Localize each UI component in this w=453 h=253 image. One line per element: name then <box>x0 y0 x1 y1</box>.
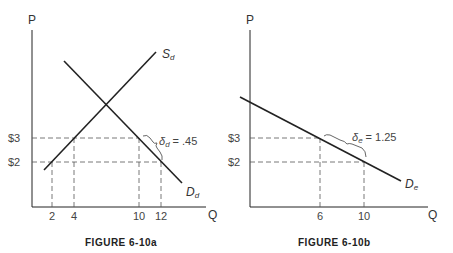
q-axis-label: Q <box>208 208 217 222</box>
q-tick-10: 10 <box>358 210 370 222</box>
figure-6-10a: P Q $3 $2 2 4 10 12 Sd Dd δd= .45 FIGURE… <box>8 13 217 248</box>
figures-canvas: P Q $3 $2 2 4 10 12 Sd Dd δd= .45 FIGURE… <box>0 0 453 253</box>
figure-caption-b: FIGURE 6-10b <box>298 237 371 248</box>
dashed-guides <box>32 138 161 207</box>
p-axis-label: P <box>28 13 36 27</box>
supply-curve-sd <box>44 52 156 170</box>
price-tick-2: $2 <box>8 156 20 168</box>
p-axis-label: P <box>246 13 254 27</box>
figure-caption-a: FIGURE 6-10a <box>85 237 157 248</box>
q-tick-12: 12 <box>155 210 167 222</box>
supply-label: Sd <box>162 47 175 62</box>
demand-label: De <box>405 177 419 192</box>
q-tick-10: 10 <box>133 210 145 222</box>
q-tick-2: 2 <box>49 210 55 222</box>
dashed-guides <box>250 138 364 207</box>
demand-curve-dd <box>64 61 182 183</box>
price-tick-2: $2 <box>228 156 240 168</box>
figure-6-10b: P Q $3 $2 6 10 De δe= 1.25 FIGURE 6-10b <box>228 13 437 248</box>
elasticity-label: δd= .45 <box>159 135 197 149</box>
q-axis-label: Q <box>428 208 437 222</box>
price-tick-3: $3 <box>228 132 240 144</box>
q-tick-6: 6 <box>317 210 323 222</box>
demand-label: Dd <box>186 185 200 200</box>
price-tick-3: $3 <box>8 132 20 144</box>
q-tick-4: 4 <box>71 210 77 222</box>
elasticity-label: δe= 1.25 <box>352 131 396 145</box>
